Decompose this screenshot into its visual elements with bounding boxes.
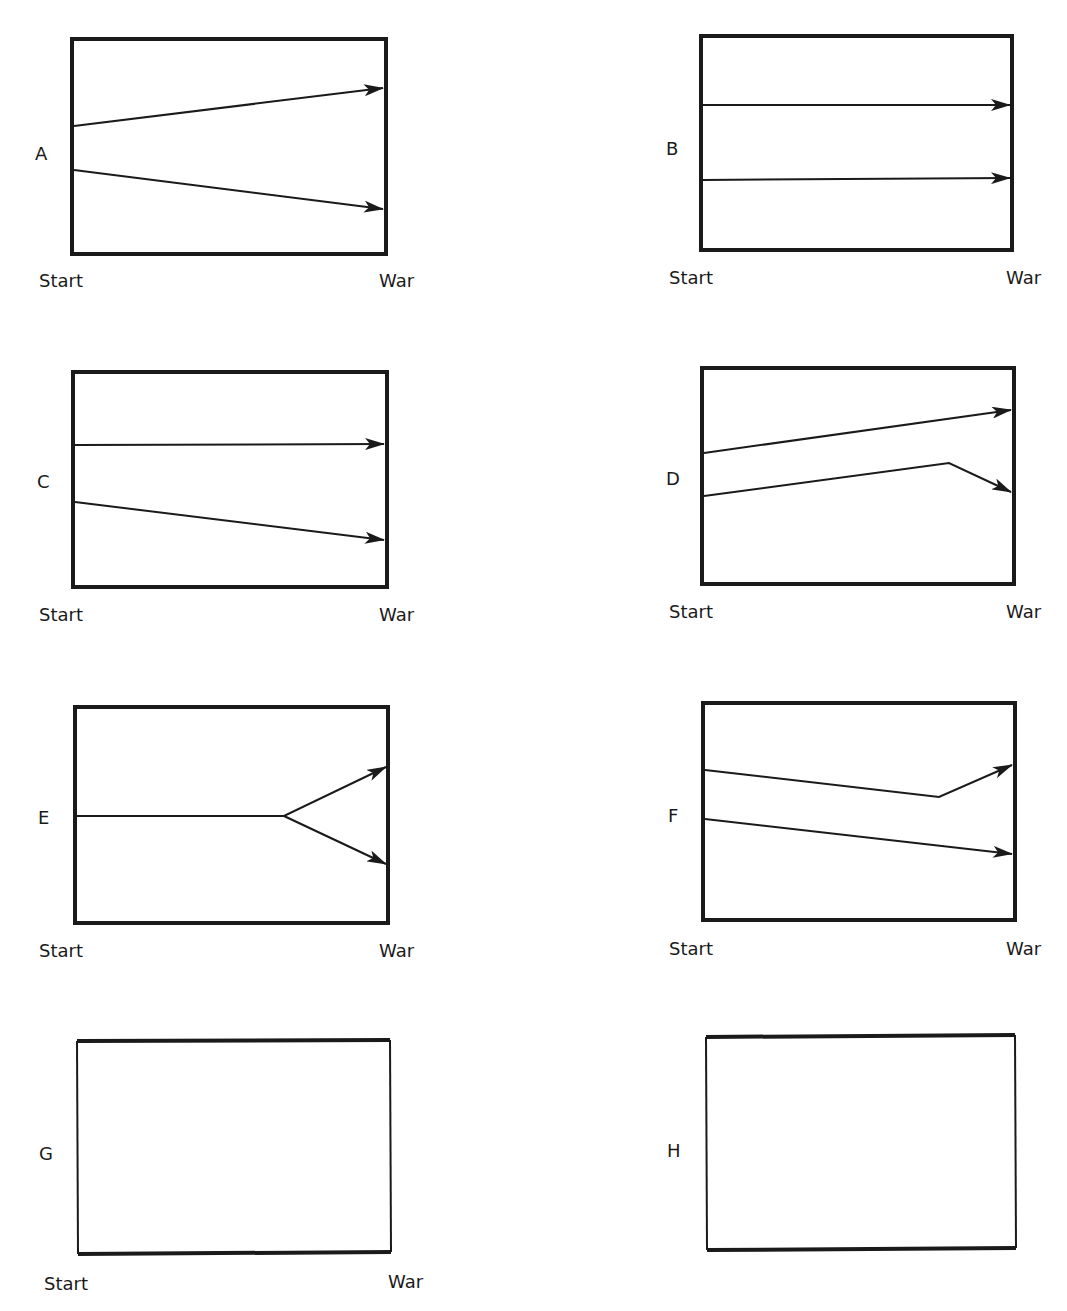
start-label: Start	[44, 1273, 88, 1294]
panel-a: A Start War	[35, 39, 415, 291]
panel-frame-right	[390, 1040, 391, 1252]
war-label: War	[379, 604, 415, 625]
panel-letter-b: B	[666, 138, 678, 159]
figure-canvas: A Start War B Start War C Start War D St…	[0, 0, 1067, 1311]
start-label: Start	[39, 604, 83, 625]
arrow-upper	[77, 767, 386, 816]
war-label: War	[379, 940, 415, 961]
start-label: Start	[669, 267, 713, 288]
war-label: War	[1006, 601, 1042, 622]
panel-e: E Start War	[38, 707, 415, 961]
panel-c: C Start War	[37, 372, 415, 625]
panel-h: H	[667, 1035, 1016, 1250]
arrow-upper	[704, 410, 1011, 453]
panel-b: B Start War	[666, 36, 1042, 288]
panel-frame-right	[1015, 1035, 1016, 1248]
war-label: War	[1006, 938, 1042, 959]
arrow-lower	[704, 463, 1011, 496]
panel-letter-f: F	[668, 805, 678, 826]
panel-frame	[701, 36, 1012, 250]
arrow-upper	[74, 88, 383, 126]
panel-letter-a: A	[35, 143, 48, 164]
start-label: Start	[669, 601, 713, 622]
panel-letter-c: C	[37, 471, 50, 492]
start-label: Start	[39, 940, 83, 961]
panel-f: F Start War	[668, 703, 1042, 959]
arrow-lower	[705, 819, 1012, 854]
panel-d: D Start War	[666, 368, 1042, 622]
panel-frame	[73, 372, 387, 587]
arrow-upper	[75, 444, 384, 445]
panel-frame-top	[706, 1035, 1015, 1037]
war-label: War	[1006, 267, 1042, 288]
panel-letter-e: E	[38, 807, 49, 828]
panel-g: G Start War	[39, 1040, 424, 1294]
panel-frame-bottom	[78, 1252, 391, 1254]
arrow-lower	[74, 170, 383, 209]
panel-frame-left	[706, 1037, 707, 1250]
panel-frame	[703, 703, 1015, 920]
panel-frame	[72, 39, 386, 254]
start-label: Start	[39, 270, 83, 291]
start-label: Start	[669, 938, 713, 959]
arrow-lower	[703, 178, 1010, 180]
panel-letter-g: G	[39, 1143, 53, 1164]
arrow-upper	[705, 765, 1012, 797]
war-label: War	[388, 1271, 424, 1292]
panel-letter-h: H	[667, 1140, 681, 1161]
panel-frame-left	[77, 1041, 78, 1254]
war-label: War	[379, 270, 415, 291]
arrow-lower	[284, 816, 386, 864]
panel-letter-d: D	[666, 468, 680, 489]
panel-frame-bottom	[707, 1248, 1016, 1250]
panel-frame-top	[77, 1040, 390, 1041]
arrow-lower	[75, 502, 384, 540]
